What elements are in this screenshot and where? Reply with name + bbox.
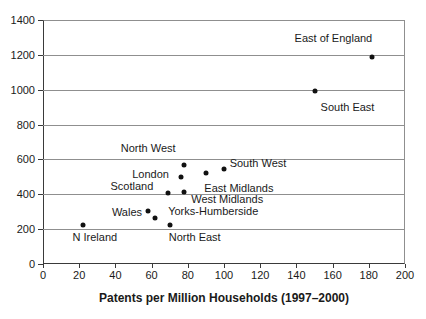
- x-tick-label-40: 40: [109, 270, 121, 281]
- point-label-east-midlands: East Midlands: [204, 182, 273, 194]
- data-point-east-of-england: [370, 54, 375, 59]
- point-label-south-west: South West: [230, 157, 287, 169]
- x-tick-label-120: 120: [251, 270, 269, 281]
- data-point-yorks-humberside: [153, 215, 158, 220]
- y-tick-600: [38, 159, 43, 160]
- gridline-y-600: [43, 159, 405, 160]
- point-label-london: London: [132, 168, 169, 180]
- y-tick-label-600: 600: [17, 154, 35, 165]
- y-tick-label-800: 800: [17, 119, 35, 130]
- x-tick-80: [188, 264, 189, 268]
- point-label-wales: Wales: [112, 206, 142, 218]
- data-point-london: [178, 174, 183, 179]
- x-tick-0: [43, 264, 44, 268]
- x-tick-label-100: 100: [215, 270, 233, 281]
- gridline-y-1000: [43, 90, 405, 91]
- point-label-south-east: South East: [321, 101, 375, 113]
- x-tick-label-140: 140: [287, 270, 305, 281]
- data-point-n-ireland: [80, 222, 85, 227]
- x-tick-label-180: 180: [360, 270, 378, 281]
- y-tick-1200: [38, 55, 43, 56]
- x-tick-180: [369, 264, 370, 268]
- data-point-east-midlands: [203, 170, 208, 175]
- y-tick-label-1400: 1400: [11, 15, 35, 26]
- y-tick-1000: [38, 90, 43, 91]
- x-tick-label-20: 20: [73, 270, 85, 281]
- x-tick-60: [152, 264, 153, 268]
- data-point-wales: [145, 208, 150, 213]
- data-point-scotland: [165, 190, 170, 195]
- y-tick-400: [38, 194, 43, 195]
- x-tick-label-200: 200: [396, 270, 414, 281]
- x-tick-140: [296, 264, 297, 268]
- y-tick-label-400: 400: [17, 189, 35, 200]
- y-tick-200: [38, 229, 43, 230]
- gridline-y-800: [43, 125, 405, 126]
- data-point-south-east: [312, 89, 317, 94]
- x-tick-40: [115, 264, 116, 268]
- data-point-north-east: [167, 222, 172, 227]
- x-tick-label-80: 80: [182, 270, 194, 281]
- y-tick-label-0: 0: [29, 259, 35, 270]
- point-label-east-of-england: East of England: [295, 32, 373, 44]
- x-axis-title: Patents per Million Households (1997–200…: [43, 291, 405, 305]
- x-tick-label-60: 60: [145, 270, 157, 281]
- x-tick-20: [79, 264, 80, 268]
- x-tick-200: [405, 264, 406, 268]
- y-tick-800: [38, 125, 43, 126]
- data-point-south-west: [222, 167, 227, 172]
- scatter-chart: 0200400600800100012001400020406080100120…: [0, 0, 426, 319]
- point-label-scotland: Scotland: [110, 180, 153, 192]
- point-label-north-east: North East: [169, 231, 221, 243]
- y-tick-label-1200: 1200: [11, 49, 35, 60]
- x-tick-label-160: 160: [323, 270, 341, 281]
- y-tick-label-1000: 1000: [11, 84, 35, 95]
- point-label-yorks-humberside: Yorks-Humberside: [168, 205, 258, 217]
- data-point-west-midlands: [182, 189, 187, 194]
- point-label-n-ireland: N Ireland: [72, 231, 117, 243]
- plot-area: [43, 20, 405, 264]
- x-tick-120: [260, 264, 261, 268]
- x-tick-160: [333, 264, 334, 268]
- x-tick-100: [224, 264, 225, 268]
- x-tick-label-0: 0: [40, 270, 46, 281]
- y-tick-label-200: 200: [17, 224, 35, 235]
- gridline-y-1200: [43, 55, 405, 56]
- y-tick-1400: [38, 20, 43, 21]
- data-point-north-west: [182, 162, 187, 167]
- point-label-west-midlands: West Midlands: [191, 193, 263, 205]
- point-label-north-west: North West: [121, 142, 176, 154]
